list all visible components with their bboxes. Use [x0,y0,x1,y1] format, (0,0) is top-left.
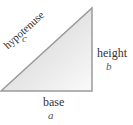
right-triangle-diagram: c hypotenuse height b base a [0,0,133,125]
base-label: base [43,96,64,108]
triangle-shape [0,0,133,125]
triangle-polygon [1,8,92,91]
base-variable: a [48,110,54,121]
height-variable: b [106,61,112,72]
height-label: height [97,47,127,59]
